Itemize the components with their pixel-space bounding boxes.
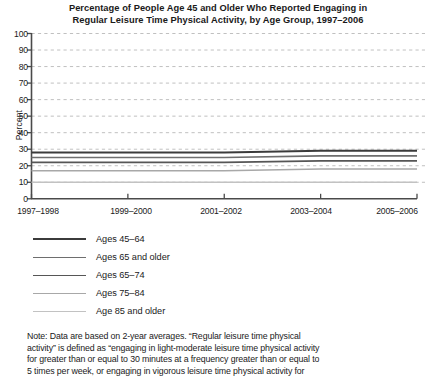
y-tick-label-40: 40 xyxy=(2,129,28,138)
y-tick-label-70: 70 xyxy=(2,79,28,88)
chart-title-line-1: Percentage of People Age 45 and Older Wh… xyxy=(18,2,418,14)
legend-swatch-line-icon xyxy=(33,275,86,276)
y-tick-label-20: 20 xyxy=(2,162,28,171)
legend-swatch-line-icon xyxy=(33,293,86,294)
legend-swatch-line-icon xyxy=(33,238,86,240)
y-tick-label-50: 50 xyxy=(2,112,28,121)
plot-area: Percent 100 90 80 70 60 50 40 30 20 10 0… xyxy=(0,28,428,208)
chart-canvas xyxy=(0,28,428,208)
legend-label: Ages 75–84 xyxy=(96,288,145,299)
x-tick-label-2001-2002: 2001–2002 xyxy=(181,206,261,216)
legend-item-age-85-and-older: Age 85 and older xyxy=(33,303,323,321)
legend-item-ages-75-84: Ages 75–84 xyxy=(33,285,323,303)
legend-item-ages-65-74: Ages 65–74 xyxy=(33,266,323,284)
chart-note: Note: Data are based on 2-year averages.… xyxy=(27,331,425,377)
legend-item-ages-65-and-older: Ages 65 and older xyxy=(33,248,323,266)
chart-note-line-1: Note: Data are based on 2-year averages.… xyxy=(27,331,425,343)
legend-label: Ages 65 and older xyxy=(96,252,170,263)
legend-swatch-line-icon xyxy=(33,257,86,258)
y-tick-label-60: 60 xyxy=(2,96,28,105)
chart-title: Percentage of People Age 45 and Older Wh… xyxy=(18,2,418,27)
chart-note-line-3: for greater than or equal to 30 minutes … xyxy=(27,354,425,366)
legend-label: Ages 45–64 xyxy=(96,234,145,245)
x-tick-label-2003-2004: 2003–2004 xyxy=(271,206,351,216)
data-series-group xyxy=(32,151,418,182)
legend-label: Ages 65–74 xyxy=(96,270,145,281)
y-tick-label-10: 10 xyxy=(2,178,28,187)
y-tick-label-80: 80 xyxy=(2,63,28,72)
chart-title-line-2: Regular Leisure Time Physical Activity, … xyxy=(18,14,418,26)
chart-note-line-4: 5 times per week, or engaging in vigorou… xyxy=(27,366,425,377)
chart-figure: Percentage of People Age 45 and Older Wh… xyxy=(0,0,428,377)
y-tick-label-90: 90 xyxy=(2,46,28,55)
y-tick-label-100: 100 xyxy=(2,30,28,39)
y-tick-label-30: 30 xyxy=(2,145,28,154)
chart-legend: Ages 45–64 Ages 65 and older Ages 65–74 … xyxy=(33,230,323,321)
y-tick-label-0: 0 xyxy=(2,195,28,204)
legend-label: Age 85 and older xyxy=(96,306,165,317)
chart-note-line-2: activity” is defined as “engaging in lig… xyxy=(27,343,425,355)
legend-item-ages-45-64: Ages 45–64 xyxy=(33,230,323,248)
x-tick-label-1997-1998: 1997–1998 xyxy=(0,206,78,216)
x-tick-label-2005-2006: 2005–2006 xyxy=(357,206,428,216)
x-tick-label-1999-2000: 1999–2000 xyxy=(91,206,171,216)
legend-swatch-line-icon xyxy=(33,311,86,312)
